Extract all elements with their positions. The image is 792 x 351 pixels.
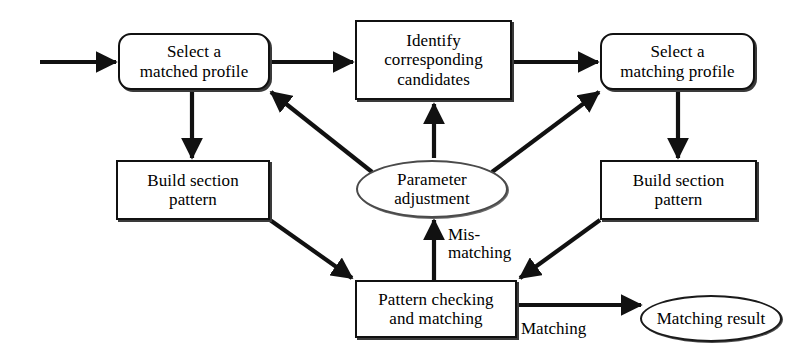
edge-label-mismatching: Mis- matching [448, 226, 511, 262]
node-matching-result[interactable]: Matching result [640, 295, 782, 342]
edge-build-left-to-pattern-checking [270, 220, 352, 278]
node-select-a-matched-profile[interactable]: Select a matched profile [118, 33, 270, 90]
node-parameter-adjustment[interactable]: Parameter adjustment [356, 160, 508, 218]
edge-parameter-to-select-matched [271, 92, 372, 172]
node-pattern-checking-and-matching[interactable]: Pattern checking and matching [355, 280, 517, 338]
flowchart-canvas: Select a matched profile Identify corres… [0, 0, 792, 351]
node-identify-corresponding-candidates[interactable]: Identify corresponding candidates [355, 20, 512, 100]
node-build-section-pattern-left[interactable]: Build section pattern [116, 160, 270, 220]
edge-label-matching: Matching [521, 320, 586, 338]
edge-parameter-to-select-matching [492, 92, 599, 172]
node-build-section-pattern-right[interactable]: Build section pattern [600, 160, 757, 220]
edge-build-right-to-pattern-checking [520, 220, 600, 278]
node-select-a-matching-profile[interactable]: Select a matching profile [600, 33, 755, 90]
